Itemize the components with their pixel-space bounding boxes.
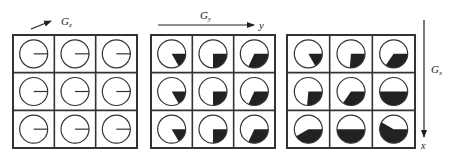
phase-wedge xyxy=(248,92,268,106)
phase-wedge xyxy=(172,129,186,141)
spin-cell xyxy=(20,115,48,143)
spin-cell xyxy=(337,115,365,143)
spin-cell xyxy=(199,78,227,106)
spin-cell xyxy=(337,40,365,68)
after-frequency-encode-gx-grid xyxy=(287,35,415,148)
phase-wedge xyxy=(172,54,186,66)
spin-cell xyxy=(380,40,408,68)
phase-wedge xyxy=(248,129,268,143)
gx-label: Gx xyxy=(431,63,443,77)
spin-cell xyxy=(294,40,322,68)
phase-wedge xyxy=(308,54,322,66)
after-phase-encode-gy-grid xyxy=(151,35,275,148)
spin-cell xyxy=(20,40,48,68)
x-axis-label: x xyxy=(420,140,426,151)
phase-wedge xyxy=(380,122,408,143)
after-slice-select-gz-grid xyxy=(13,35,137,148)
spin-cell xyxy=(337,78,365,106)
spin-cell xyxy=(158,115,186,143)
spin-cell xyxy=(380,78,408,106)
phase-wedge xyxy=(248,54,268,68)
gy-label: Gy xyxy=(200,9,212,23)
spin-cell xyxy=(294,115,322,143)
phase-wedge xyxy=(386,54,408,68)
spin-cell xyxy=(199,40,227,68)
spin-cell xyxy=(158,40,186,68)
mri-spatial-encoding-diagram: Gz Gy y Gx x xyxy=(0,0,449,160)
spin-cell xyxy=(240,115,268,143)
spin-cell xyxy=(102,115,130,143)
spin-phase-grids xyxy=(13,35,415,148)
spin-cell xyxy=(380,115,408,143)
phase-wedge xyxy=(337,129,365,143)
spin-circle xyxy=(294,40,322,68)
gz-label: Gz xyxy=(61,15,72,29)
spin-cell xyxy=(61,40,89,68)
spin-cell xyxy=(61,78,89,106)
spin-cell xyxy=(199,115,227,143)
spin-cell xyxy=(294,78,322,106)
y-axis-label: y xyxy=(258,19,264,31)
phase-wedge xyxy=(343,92,365,106)
spin-cell xyxy=(158,78,186,106)
spin-cell xyxy=(102,40,130,68)
phase-wedge xyxy=(172,92,186,104)
spin-cell xyxy=(240,40,268,68)
spin-circle xyxy=(158,40,186,68)
gz-gradient-arrow xyxy=(31,21,51,29)
spin-cell xyxy=(61,115,89,143)
phase-wedge xyxy=(380,92,408,106)
spin-cell xyxy=(102,78,130,106)
spin-cell xyxy=(240,78,268,106)
spin-cell xyxy=(20,78,48,106)
